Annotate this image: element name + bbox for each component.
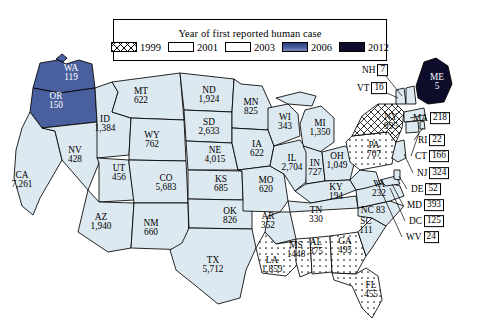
state-value-LA: 1,859 [262, 265, 283, 274]
state-OK [188, 199, 252, 229]
state-value-OH: 1,049 [327, 161, 348, 170]
state-label-VA: VA232 [372, 180, 386, 199]
callout-value-WV: 24 [424, 231, 439, 243]
legend-label-2001: 2001 [197, 42, 218, 53]
callout-value-VT: 16 [371, 82, 386, 94]
state-label-NC: NC 83 [361, 206, 386, 215]
state-callout-CT: CT166 [415, 150, 449, 162]
state-callout-DC: DC125 [409, 215, 444, 227]
state-value-WI: 343 [278, 122, 292, 131]
state-label-AZ: AZ1,940 [91, 213, 112, 232]
state-label-CO: CO5,683 [156, 174, 177, 193]
callout-code-NH: NH [362, 65, 375, 75]
state-value-ID: 1,384 [95, 124, 116, 133]
legend-title: Year of first reported human case [178, 28, 321, 39]
state-value-CO: 5,683 [156, 183, 177, 192]
state-label-ME: ME5 [430, 73, 444, 92]
legend-item-2012: 2012 [339, 42, 389, 53]
state-label-NE: NE4,015 [205, 146, 226, 165]
state-label-CA: CA7,261 [12, 171, 33, 190]
state-value-NV: 428 [68, 155, 82, 164]
state-label-WI: WI343 [278, 113, 292, 132]
state-callout-DE: DE52 [411, 183, 441, 195]
state-value-VA: 232 [372, 189, 386, 198]
state-label-ID: ID1,384 [95, 115, 116, 134]
legend-label-1999: 1999 [140, 42, 161, 53]
state-value-CA: 7,261 [12, 180, 33, 189]
state-value-KS: 685 [214, 184, 228, 193]
state-callout-NH: NH7 [362, 64, 388, 76]
legend-label-2012: 2012 [368, 42, 389, 53]
state-label-UT: UT456 [112, 164, 126, 183]
legend-label-2003: 2003 [254, 42, 275, 53]
legend-item-2001: 2001 [168, 42, 218, 53]
state-label-OK: OK826 [223, 207, 237, 226]
state-value-MS: 1448 [287, 250, 306, 259]
callout-code-WV: WV [406, 232, 422, 242]
state-value-SD: 2,633 [199, 127, 220, 136]
state-callout-MA: MA218 [413, 112, 450, 124]
state-label-SD: SD2,633 [199, 118, 220, 137]
state-NM [131, 203, 189, 250]
state-value-IN: 727 [308, 168, 322, 177]
state-value-OR: 150 [49, 101, 63, 110]
state-label-IA: IA622 [250, 140, 264, 159]
state-value-GA: 495 [338, 246, 352, 255]
state-label-WY: WY762 [144, 131, 160, 150]
callout-value-DC: 125 [424, 215, 444, 227]
state-label-IL: IL2,704 [282, 154, 303, 173]
legend-swatch-2003-icon [225, 42, 251, 52]
state-value-UT: 456 [112, 173, 126, 182]
state-label-OH: OH1,049 [327, 152, 348, 171]
legend-swatch-2012-icon [339, 42, 365, 52]
callout-code-DE: DE [411, 184, 423, 194]
state-value-NE: 4,015 [205, 155, 226, 164]
state-value-AL: 375 [309, 247, 323, 256]
state-callout-VT: VT16 [357, 82, 387, 94]
state-value-IL: 2,704 [282, 163, 303, 172]
state-NH [406, 86, 416, 104]
state-value-WA: 119 [64, 73, 78, 82]
state-value-MO: 620 [259, 185, 274, 194]
state-label-MO: MO620 [259, 176, 274, 195]
state-label-MI: MI1,350 [310, 119, 331, 138]
state-OR [30, 88, 97, 128]
state-label-GA: GA495 [338, 237, 352, 256]
callout-value-MD: 393 [424, 199, 444, 211]
state-callout-NJ: NJ324 [417, 167, 449, 179]
state-label-OR: OR150 [49, 92, 63, 111]
state-label-AL: AL375 [309, 238, 323, 257]
callout-code-NJ: NJ [417, 168, 427, 178]
callout-code-RI: RI [418, 135, 427, 145]
state-label-MS: MS1448 [287, 241, 306, 260]
state-label-NM: NM660 [144, 219, 159, 238]
state-label-NY: NY995 [384, 113, 398, 132]
state-value-KY: 194 [329, 192, 343, 201]
state-value-OK: 826 [223, 216, 237, 225]
state-callout-WV: WV24 [406, 231, 439, 243]
state-DE [394, 170, 400, 180]
callout-value-NH: 7 [377, 64, 388, 76]
state-value-AR: 352 [261, 221, 275, 230]
state-label-AR: AR352 [261, 212, 275, 231]
state-callout-RI: RI22 [418, 134, 445, 146]
callout-code-CT: CT [415, 151, 427, 161]
state-value-MN: 825 [244, 107, 259, 116]
state-value-AZ: 1,940 [91, 222, 112, 231]
legend-item-2006: 2006 [282, 42, 332, 53]
state-label-MN: MN825 [244, 98, 259, 117]
state-label-NV: NV428 [68, 146, 82, 165]
state-value-MT: 622 [134, 96, 148, 105]
state-label-MT: MT622 [134, 87, 148, 106]
state-label-FL: FL455 [364, 281, 378, 300]
state-label-LA: LA1,859 [262, 256, 283, 275]
callout-code-DC: DC [409, 216, 422, 226]
state-value-WY: 762 [144, 140, 160, 149]
legend-item-1999: 1999 [111, 42, 161, 53]
state-label-TX: TX5,712 [203, 256, 224, 275]
state-label-WA: WA119 [64, 64, 78, 83]
callout-value-NJ: 324 [429, 167, 449, 179]
callout-value-RI: 22 [429, 134, 444, 146]
state-value-NY: 995 [384, 122, 398, 131]
state-code-NC: NC 83 [361, 205, 386, 215]
